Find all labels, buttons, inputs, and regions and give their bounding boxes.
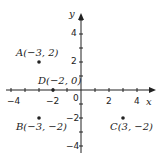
origin-label: 0	[73, 93, 79, 103]
x-tick-label: −4	[7, 96, 21, 106]
y-axis-arrow-icon	[78, 13, 84, 20]
y-tick-label: −4	[66, 141, 80, 151]
point-d	[51, 88, 55, 92]
x-tick-label: −2	[46, 96, 59, 106]
x-axis-label: x	[146, 96, 152, 107]
coordinate-plane: −4 −2 2 4 0 x 4 2 −2 −4 y A(−3, 2) B(−3,…	[0, 0, 161, 164]
x-tick-label: 2	[106, 96, 112, 106]
y-tick-label: 4	[71, 28, 77, 38]
y-tick-label: −2	[66, 113, 79, 123]
point-b-label: B(−3, −2)	[15, 121, 67, 132]
x-axis-arrow-icon	[149, 87, 156, 93]
point-d-label: D(−2, 0)	[37, 75, 81, 86]
y-axis-label: y	[68, 8, 75, 19]
point-c	[121, 116, 125, 120]
point-c-label: C(3, −2)	[110, 121, 153, 132]
point-a	[37, 60, 41, 64]
point-a-label: A(−3, 2)	[15, 47, 59, 58]
x-tick-label: 4	[134, 96, 140, 106]
point-b	[37, 116, 41, 120]
y-tick-label: 2	[71, 56, 77, 66]
